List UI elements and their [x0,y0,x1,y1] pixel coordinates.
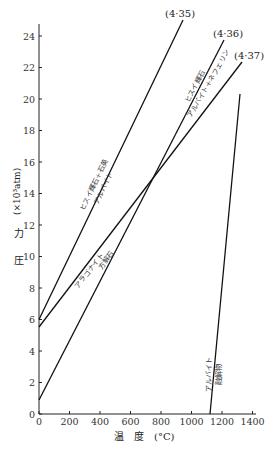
y-tick-label: 20 [23,94,35,105]
label-4-37-upper: アラゴナイト [72,252,105,291]
line-4-36 [39,40,224,400]
y-tick-label: 14 [23,188,35,199]
y-tick-label: 0 [29,409,35,420]
y-tick-label: 18 [23,125,35,136]
eq-label-4-35: (4·35) [165,8,195,19]
x-ticks: 0200400600800100012001400 [36,411,265,427]
x-axis-title: 温 度 (°C) [114,430,175,442]
x-tick-label: 600 [121,416,139,427]
line-4-37 [39,62,242,327]
y-tick-label: 16 [23,157,35,168]
label-melt-upper: アルバイト [205,357,213,392]
y-tick-label: 24 [23,31,35,42]
y-tick-label: 4 [29,346,35,357]
y-tick-label: 12 [23,220,35,231]
eq-label-4-36: (4·36) [213,28,243,39]
y-tick-label: 22 [23,62,35,73]
y-axis-title-unit: (×10³atm) [12,168,22,215]
y-tick-label: 10 [23,251,35,262]
y-tick-label: 8 [29,283,35,294]
y-axis-title-1: 圧 [14,255,24,266]
line-4-35 [39,20,183,320]
x-tick-label: 1200 [210,416,234,427]
x-tick-label: 800 [152,416,170,427]
y-tick-label: 6 [29,314,35,325]
label-melt-lower: 融解物 [214,364,223,385]
y-tick-label: 2 [29,377,35,388]
phase-diagram: 024681012141618202224 020040060080010001… [0,0,270,450]
eq-label-4-37: (4·37) [234,50,264,61]
x-tick-label: 1400 [240,416,264,427]
x-tick-label: 200 [60,416,78,427]
x-tick-label: 1000 [179,416,203,427]
x-tick-label: 0 [36,416,42,427]
y-axis-title-2: 力 [14,227,24,239]
x-tick-label: 400 [91,416,109,427]
